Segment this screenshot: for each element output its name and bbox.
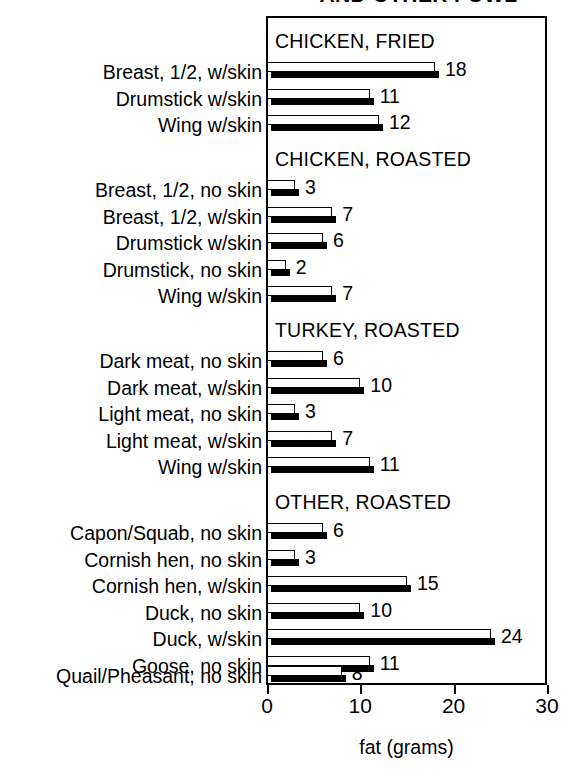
bar: 12 [267, 115, 384, 132]
fat-in-poultry-bar-chart: AND OTHER FOWL CHICKEN, FRIEDCHICKEN, RO… [0, 0, 571, 779]
section-header: TURKEY, ROASTED [275, 321, 460, 341]
x-axis-tick-label: 20 [424, 695, 484, 716]
bar-front-face [271, 295, 336, 302]
bar-value-label: 7 [342, 284, 353, 304]
bar-value-label: 10 [370, 376, 392, 396]
bar-front-face [271, 466, 374, 473]
bar-value-label: 7 [342, 429, 353, 449]
bar-front-face [271, 413, 299, 420]
bar-front-face [271, 98, 374, 105]
bar: 8 [267, 666, 347, 683]
bar-value-label: 15 [417, 574, 439, 594]
bar-front-face [271, 71, 439, 78]
bar: 3 [267, 180, 300, 197]
x-axis-tick-label: 10 [330, 695, 390, 716]
bar-value-label: 8 [352, 664, 363, 684]
bar-front-face [271, 387, 364, 394]
x-axis-tick-label: 30 [517, 695, 571, 716]
bar: 18 [267, 62, 440, 79]
category-label: Duck, no skin [145, 604, 262, 624]
bar-value-label: 11 [380, 455, 400, 475]
category-label: Wing w/skin [158, 458, 262, 478]
bar-value-label: 6 [333, 349, 344, 369]
bar: 6 [267, 351, 328, 368]
x-axis-tick [267, 685, 269, 694]
bar: 2 [267, 260, 291, 277]
bar-front-face [271, 216, 336, 223]
bar-front-face [271, 585, 411, 592]
bar-value-label: 10 [370, 601, 392, 621]
bar: 7 [267, 286, 337, 303]
bar-front-face [271, 360, 327, 367]
bar-value-label: 18 [445, 60, 467, 80]
x-axis-tick-label: 0 [237, 695, 297, 716]
bar: 11 [267, 457, 375, 474]
bar: 11 [267, 89, 375, 106]
bar: 24 [267, 629, 496, 646]
section-header: CHICKEN, FRIED [275, 32, 435, 52]
category-label: Drumstick w/skin [116, 90, 262, 110]
category-label: Cornish hen, no skin [84, 551, 262, 571]
bar-value-label: 2 [296, 258, 307, 278]
x-axis-tick [360, 685, 362, 694]
bar-value-label: 11 [380, 654, 400, 674]
bar-front-face [271, 559, 299, 566]
bar-value-label: 12 [389, 113, 411, 133]
section-header: CHICKEN, ROASTED [275, 150, 471, 170]
bar-value-label: 7 [342, 205, 353, 225]
category-label: Dark meat, w/skin [107, 379, 262, 399]
bar: 10 [267, 603, 365, 620]
bar: 6 [267, 233, 328, 250]
bar-front-face [271, 189, 299, 196]
bar-value-label: 11 [380, 87, 400, 107]
category-label: Light meat, w/skin [106, 432, 262, 452]
category-label: Light meat, no skin [98, 405, 262, 425]
chart-title: AND OTHER FOWL [266, 0, 571, 9]
bar-front-face [271, 612, 364, 619]
bar-front-face [271, 269, 290, 276]
category-label: Breast, 1/2, w/skin [103, 63, 262, 83]
category-label: Wing w/skin [158, 116, 262, 136]
bar: 15 [267, 576, 412, 593]
bar-front-face [271, 124, 383, 131]
bar: 6 [267, 523, 328, 540]
bar: 3 [267, 404, 300, 421]
category-label: Duck, w/skin [153, 630, 262, 650]
bar-value-label: 6 [333, 231, 344, 251]
bar: 3 [267, 550, 300, 567]
x-axis-title: fat (grams) [266, 738, 547, 758]
bar-front-face [271, 440, 336, 447]
bar-front-face [271, 242, 327, 249]
bar-value-label: 6 [333, 521, 344, 541]
x-axis: 0102030 [0, 685, 571, 695]
bar-value-label: 24 [501, 627, 523, 647]
category-label: Drumstick w/skin [116, 234, 262, 254]
x-axis-tick [454, 685, 456, 694]
category-label: Breast, 1/2, no skin [95, 181, 262, 201]
category-label: Wing w/skin [158, 287, 262, 307]
bar: 10 [267, 378, 365, 395]
category-label: Quail/Pheasant, no skin [56, 667, 262, 687]
bar-value-label: 3 [305, 402, 316, 422]
bar-front-face [271, 638, 495, 645]
x-axis-tick [547, 685, 549, 694]
bar-value-label: 3 [305, 548, 316, 568]
bar-value-label: 3 [305, 178, 316, 198]
section-header: OTHER, ROASTED [275, 493, 451, 513]
bar-front-face [271, 675, 346, 682]
bar: 7 [267, 431, 337, 448]
category-label: Breast, 1/2, w/skin [103, 208, 262, 228]
bar: 7 [267, 207, 337, 224]
category-label: Cornish hen, w/skin [92, 577, 262, 597]
category-label: Capon/Squab, no skin [70, 524, 262, 544]
category-label: Dark meat, no skin [99, 352, 262, 372]
category-label: Drumstick, no skin [103, 261, 262, 281]
bar-front-face [271, 532, 327, 539]
